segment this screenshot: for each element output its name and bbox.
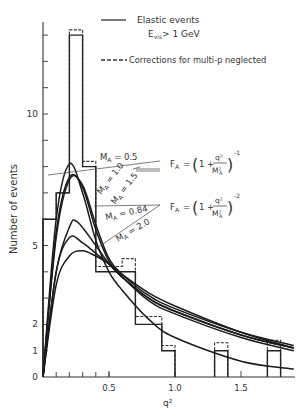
x-tick-label: 1.5	[234, 383, 248, 393]
solid-histogram-path	[43, 35, 281, 377]
y-tick-label: 1	[32, 346, 38, 356]
curve-dipole-ma-0.84	[43, 220, 294, 377]
legend-solid-label: Elastic events	[137, 15, 200, 25]
svg-text:q²: q²	[215, 153, 223, 162]
formula-monopole: FA = ( 1 + q² M² A ) -1	[170, 149, 240, 176]
y-tick-label: 2	[32, 319, 38, 329]
legend-dashed-label: Corrections for multi-p neglected	[129, 55, 266, 65]
legend-solid-sublabel: Evis> 1 GeV	[148, 29, 201, 40]
x-axis-label: q²	[163, 398, 173, 408]
y-tick-label: 5	[32, 241, 38, 251]
curve-dipole-ma-2	[43, 251, 294, 377]
y-tick-label: 10	[27, 109, 39, 119]
axes	[43, 22, 295, 377]
x-tick-label: 0.5	[102, 383, 116, 393]
histogram-solid-elastic	[43, 35, 281, 377]
x-axis-ticks: 0.51.01.5	[56, 371, 248, 393]
svg-text:FA: FA	[170, 159, 180, 170]
svg-text:-2: -2	[234, 192, 240, 199]
label-ma-2.0: MA = 2.0	[114, 216, 152, 244]
y-tick-label: 0	[32, 372, 38, 382]
legend: Elastic events Evis> 1 GeV Corrections f…	[101, 15, 266, 65]
svg-text:(: (	[192, 198, 198, 217]
y-axis-ticks: 012510	[27, 35, 48, 382]
svg-text:(: (	[192, 155, 198, 174]
svg-text:A: A	[219, 170, 223, 176]
chart: 012510 0.51.01.5 Number of events q² Ela…	[0, 0, 302, 416]
curve-monopole-ma-1.5	[43, 176, 294, 377]
y-axis-label: Number of events	[8, 164, 19, 254]
svg-text:): )	[227, 155, 233, 174]
svg-text:=: =	[183, 202, 190, 212]
svg-text:A: A	[219, 213, 223, 219]
svg-text:=: =	[183, 159, 190, 169]
svg-text:FA: FA	[170, 202, 180, 213]
svg-text:): )	[227, 198, 233, 217]
svg-text:-1: -1	[234, 149, 240, 156]
svg-text:q²: q²	[215, 196, 223, 205]
x-tick-label: 1.0	[168, 383, 182, 393]
curve-monopole-ma-1	[43, 174, 294, 377]
formula-dipole: FA = ( 1 + q² M² A ) -2	[170, 192, 240, 219]
